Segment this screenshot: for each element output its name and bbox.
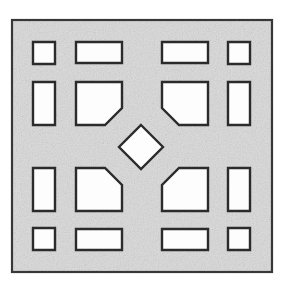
diagram-root (0, 0, 282, 284)
edge-rect-top-right (162, 42, 208, 63)
corner-square-bottom-right (228, 228, 250, 250)
edge-rect-bottom-right (162, 229, 208, 250)
edge-rect-left-lower (33, 168, 55, 211)
corner-square-top-right (228, 42, 250, 64)
perforated-plate-diagram (0, 0, 282, 284)
edge-rect-bottom-left (76, 229, 122, 250)
edge-rect-top-left (76, 42, 122, 63)
corner-square-top-left (33, 42, 55, 64)
edge-rect-left-upper (33, 82, 55, 125)
corner-square-bottom-left (33, 228, 55, 250)
edge-rect-right-lower (228, 168, 250, 211)
edge-rect-right-upper (228, 82, 250, 125)
